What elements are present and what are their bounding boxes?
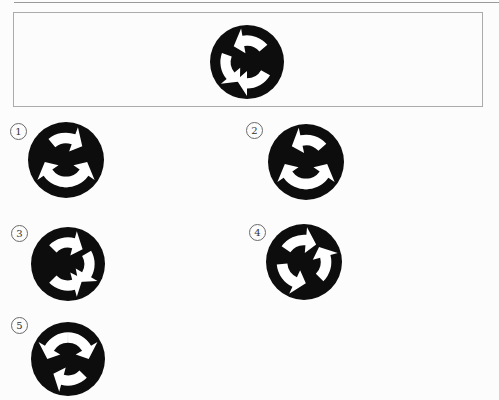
page-top-rule <box>14 2 499 3</box>
option-2-figure <box>268 124 344 200</box>
question-box <box>13 12 483 107</box>
option-2-number: 2 <box>246 122 263 139</box>
option-3-number: 3 <box>11 225 28 242</box>
option-1-figure <box>28 122 104 198</box>
option-4-number: 4 <box>249 224 266 241</box>
option-5-number: 5 <box>11 317 28 334</box>
option-4-figure <box>266 224 342 300</box>
option-5-figure <box>31 322 105 396</box>
worksheet-page: 1 2 3 4 5 <box>0 0 499 400</box>
question-figure <box>210 25 284 99</box>
option-3-figure <box>31 227 105 301</box>
option-1-number: 1 <box>10 123 27 140</box>
